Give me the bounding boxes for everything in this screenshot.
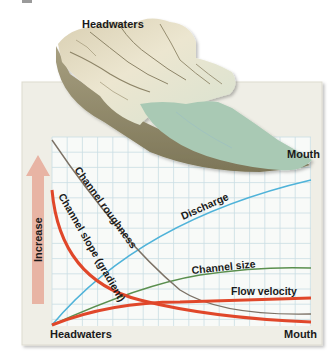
stream-profile-diagram: Increase Channel roughness Channel slope…	[0, 0, 334, 364]
increase-label: Increase	[32, 217, 44, 262]
mouth-top-label: Mouth	[287, 148, 320, 160]
headwaters-axis-label: Headwaters	[50, 328, 112, 340]
headwaters-top-label: Headwaters	[82, 18, 144, 30]
mouth-axis-label: Mouth	[284, 328, 317, 340]
flow-velocity-label: Flow velocity	[231, 285, 297, 297]
